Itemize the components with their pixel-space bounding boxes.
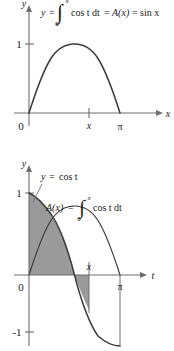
bottom-y-tick-label-neg1: -1 bbox=[12, 326, 21, 338]
formula-eq2: = bbox=[104, 7, 110, 18]
area-formula-eq: = bbox=[68, 202, 74, 213]
top-y-axis-label: y bbox=[21, 0, 27, 9]
formula-eq3: = bbox=[132, 7, 138, 18]
bottom-y-tick-label-1: 1 bbox=[16, 187, 22, 199]
formula-integrand: cos t dt bbox=[71, 7, 100, 18]
cos-label-expr: cos t bbox=[59, 171, 78, 182]
formula-function-name: A(x) bbox=[111, 7, 130, 19]
bottom-panel-cosine: 1 -1 0 x π t y y = bbox=[0, 150, 174, 351]
formula-y: y bbox=[40, 7, 46, 18]
bottom-y-axis-label: y bbox=[21, 158, 27, 169]
formula-eq1: = bbox=[49, 7, 55, 18]
shaded-strip-to-x bbox=[75, 275, 90, 310]
top-x-tick-label-pi: π bbox=[117, 121, 122, 132]
area-formula-upper-limit: x bbox=[86, 194, 91, 202]
top-formula: y = ∫ x 0 cos t dt = A(x) = sin x bbox=[40, 0, 159, 28]
calculus-figure: 1 x π 0 x y y = ∫ x 0 bbox=[0, 0, 174, 351]
top-sine-curve bbox=[29, 44, 120, 113]
top-panel-area-function: 1 x π 0 x y y = ∫ x 0 bbox=[0, 0, 174, 150]
bottom-x-tick-label-x: x bbox=[86, 261, 92, 272]
top-y-tick-label-1: 1 bbox=[16, 38, 22, 50]
cos-label-y: y bbox=[40, 171, 46, 182]
top-origin-label: 0 bbox=[18, 120, 24, 132]
area-formula-name: A(x) bbox=[45, 202, 64, 214]
area-formula-lower-limit: 0 bbox=[77, 215, 81, 223]
formula-lower-limit: 0 bbox=[55, 20, 59, 28]
top-plot-svg: 1 x π 0 x y y = ∫ x 0 bbox=[0, 0, 174, 150]
area-formula-integrand: cos t dt bbox=[93, 202, 122, 213]
top-x-axis-label: x bbox=[165, 108, 171, 119]
bottom-plot-svg: 1 -1 0 x π t y y = bbox=[0, 150, 174, 351]
formula-upper-limit: x bbox=[64, 0, 69, 5]
top-x-tick-label-x: x bbox=[86, 120, 92, 131]
bottom-x-tick-label-pi: π bbox=[117, 281, 122, 292]
cosine-curve-label: y = cos t bbox=[33, 171, 78, 202]
formula-result: sin x bbox=[140, 7, 159, 18]
bottom-origin-label: 0 bbox=[18, 281, 24, 293]
cos-label-eq: = bbox=[49, 171, 55, 182]
bottom-x-axis-label: t bbox=[152, 270, 155, 281]
